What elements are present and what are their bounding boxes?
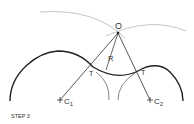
line-c2-to-o (118, 33, 150, 100)
tangent-arc-construction-diagram: O R T T C1 C2 STEP 3 (0, 0, 194, 124)
step-caption: STEP 3 (11, 113, 30, 119)
c2-point-mark (147, 97, 153, 103)
right-arc (140, 66, 183, 101)
label-o: O (115, 21, 122, 31)
construction-arc-left-small (96, 72, 109, 100)
construction-arc-from-c1 (40, 12, 125, 38)
label-c1: C1 (64, 97, 74, 107)
label-t-right: T (141, 69, 146, 76)
label-c2: C2 (154, 97, 164, 107)
label-t-left: T (89, 70, 94, 77)
radius-line (106, 33, 118, 70)
line-c1-to-o (60, 33, 118, 100)
construction-arc-right-small (118, 73, 135, 100)
o-point-mark (117, 32, 120, 35)
label-r: R (108, 54, 114, 63)
